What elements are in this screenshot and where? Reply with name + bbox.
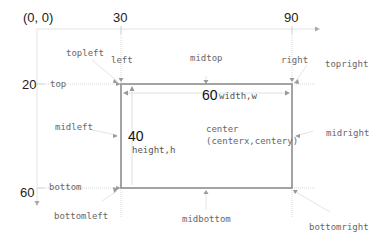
label-bottom: bottom	[49, 182, 82, 192]
x-axis	[37, 26, 320, 34]
x-axis-arrow-icon	[315, 27, 320, 32]
label-midleft: midleft	[55, 122, 93, 132]
y-axis-arrow-icon	[35, 201, 40, 206]
origin-label: (0, 0)	[23, 10, 53, 25]
label-bottomleft: bottomleft	[54, 211, 108, 221]
pygame-rect-diagram: (0, 0) 30 90 20 60 topleft left midtop r…	[0, 0, 384, 243]
y-tick-label-20: 20	[22, 77, 36, 92]
right-arrow-icon	[290, 78, 295, 82]
label-left: left	[111, 55, 133, 65]
left-arrow-icon	[119, 78, 124, 82]
x-tick-label-30: 30	[113, 10, 127, 25]
label-topright: topright	[325, 59, 368, 69]
width-value: 60	[202, 87, 218, 103]
label-topleft: topleft	[66, 48, 104, 58]
label-top: top	[50, 79, 66, 89]
label-midright: midright	[326, 128, 369, 138]
label-midbottom: midbottom	[182, 214, 231, 224]
label-center-coords: (centerx,centery)	[206, 136, 298, 146]
x-tick-label-90: 90	[284, 10, 298, 25]
width-label: width,w	[219, 91, 258, 101]
y-tick-label-60: 60	[20, 185, 34, 200]
y-axis	[35, 29, 45, 206]
label-center: center	[206, 124, 239, 134]
height-value: 40	[128, 128, 144, 144]
midbottom-arrow-icon	[204, 190, 209, 194]
label-bottomright: bottomright	[309, 222, 369, 232]
label-right: right	[281, 55, 308, 65]
label-midtop: midtop	[190, 53, 223, 63]
bottomright-arrow-icon	[293, 190, 298, 194]
height-label: height,h	[132, 145, 175, 155]
